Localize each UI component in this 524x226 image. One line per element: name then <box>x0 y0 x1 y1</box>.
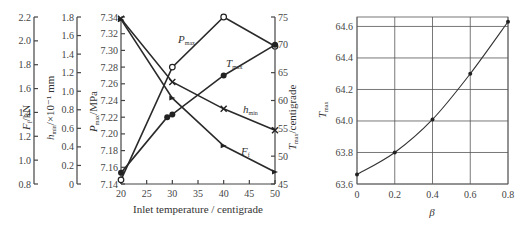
tick-label: 45 <box>244 188 254 199</box>
tick-label: 7.18 <box>101 145 119 156</box>
tick-label: 65 <box>278 67 288 78</box>
data-point <box>468 72 472 76</box>
tick-label: 0.8 <box>502 189 515 200</box>
tick-label: 1.2 <box>19 131 32 142</box>
series-label-hmin: hmin <box>243 103 258 116</box>
tick-label: 7.26 <box>101 78 119 89</box>
tick-label: 63.6 <box>336 179 354 190</box>
series-line-tmax <box>121 45 275 173</box>
tick-label: 0 <box>69 179 74 190</box>
x-axis-label: Inlet temperature / centigrade <box>133 203 263 215</box>
tick-label: 0 <box>355 189 360 200</box>
tick-label: 0.6 <box>464 189 477 200</box>
tick-label: 35 <box>193 188 203 199</box>
data-point <box>506 20 510 24</box>
tick-label: 30 <box>167 188 177 199</box>
tmax-axis-label: Tmax/centigrade <box>286 85 299 150</box>
tick-label: 7.22 <box>101 112 119 123</box>
tick-label: 63.8 <box>336 147 354 158</box>
tick-label: 64.6 <box>336 21 354 32</box>
figure: 0.81.01.21.41.61.82.02.2 00.20.40.60.81.… <box>0 0 524 226</box>
right-y-axis-label: Tmax <box>316 102 329 118</box>
tick-label: 1.6 <box>19 83 32 94</box>
hmin-axis: 00.20.40.60.81.01.21.41.61.8 <box>62 12 82 190</box>
series-line-pmax <box>121 17 275 180</box>
tick-label: 70 <box>278 39 288 50</box>
tick-label: 0.4 <box>62 141 75 152</box>
tick-label: 40 <box>219 188 229 199</box>
tick-label: 7.20 <box>101 128 119 139</box>
tick-label: 1.4 <box>62 49 75 60</box>
tick-label: 64.4 <box>336 52 354 63</box>
tick-label: 64.0 <box>336 115 354 126</box>
left-chart: 0.81.01.21.41.61.82.02.2 00.20.40.60.81.… <box>19 12 300 216</box>
tick-label: 1.8 <box>62 12 75 23</box>
series-label-tmax: Tmax <box>226 57 242 70</box>
tick-label: 0.4 <box>426 189 439 200</box>
inlet-temperature-axis: 20253035404550 <box>116 180 280 199</box>
tick-label: 20 <box>116 188 126 199</box>
hmin-axis-label: hmin/×10⁻¹ mm <box>44 75 57 140</box>
tick-label: 1.8 <box>19 59 32 70</box>
tick-label: 7.32 <box>101 28 119 39</box>
tick-label: 0.8 <box>19 179 32 190</box>
tick-label: 50 <box>278 151 288 162</box>
series-lines <box>118 14 278 182</box>
tick-label: 2.0 <box>19 35 32 46</box>
pmax-axis: 7.147.167.187.207.227.247.267.287.307.32… <box>101 12 126 190</box>
tick-label: 2.2 <box>19 12 32 23</box>
tick-label: 7.34 <box>101 12 119 23</box>
right-grid <box>357 17 508 184</box>
ff-axis-label: Ff/kN <box>20 105 33 131</box>
tick-label: 50 <box>270 188 280 199</box>
tick-label: 1.2 <box>62 67 75 78</box>
tick-label: 0.6 <box>62 123 75 134</box>
ff-axis: 0.81.01.21.41.61.82.02.2 <box>19 12 39 190</box>
right-axes: 00.20.40.60.863.663.864.064.264.464.6 <box>336 21 515 200</box>
right-chart: 00.20.40.60.863.663.864.064.264.464.6 Tm… <box>316 17 514 218</box>
tick-label: 25 <box>142 188 152 199</box>
tick-label: 1.0 <box>19 155 32 166</box>
tick-label: 7.24 <box>101 95 119 106</box>
right-x-axis-label: β <box>428 206 435 218</box>
data-point <box>355 173 359 177</box>
tick-label: 7.30 <box>101 45 119 56</box>
pmax-axis-label: Pmax/MPa <box>87 91 100 133</box>
data-point <box>431 117 435 121</box>
series-label-pmax: Pmax <box>177 33 195 46</box>
tick-label: 0.2 <box>62 160 75 171</box>
data-point <box>393 150 397 154</box>
tick-label: 75 <box>278 12 288 23</box>
tick-label: 0.8 <box>62 104 75 115</box>
series-label-ff: Ff <box>240 145 250 158</box>
tick-label: 64.2 <box>336 84 354 95</box>
tick-label: 1.6 <box>62 30 75 41</box>
tick-label: 7.28 <box>101 62 119 73</box>
tick-label: 7.16 <box>101 162 119 173</box>
tick-label: 0.2 <box>389 189 402 200</box>
tick-label: 1.0 <box>62 86 75 97</box>
